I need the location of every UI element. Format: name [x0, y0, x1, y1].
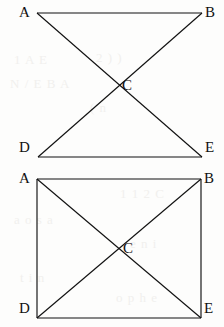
vertex-label-rectangle-b: B — [204, 171, 214, 186]
vertex-label-rectangle-a: A — [19, 171, 30, 186]
vertex-label-rectangle-d: D — [19, 301, 30, 316]
vertex-label-bowtie-a: A — [19, 5, 30, 20]
vertex-label-bowtie-d: D — [19, 140, 30, 155]
vertex-label-bowtie-e: E — [205, 140, 214, 155]
vertex-label-bowtie-c: C — [122, 78, 132, 93]
vertex-label-bowtie-b: B — [205, 5, 215, 20]
figure-bowtie — [0, 0, 224, 166]
vertex-label-rectangle-c: C — [123, 241, 133, 256]
figure-page: 1 A E2 ) )N / E B A( n1 1 2 Ca o s ae n … — [0, 0, 224, 327]
figure-rectangle — [0, 166, 224, 327]
vertex-label-rectangle-e: E — [204, 301, 213, 316]
